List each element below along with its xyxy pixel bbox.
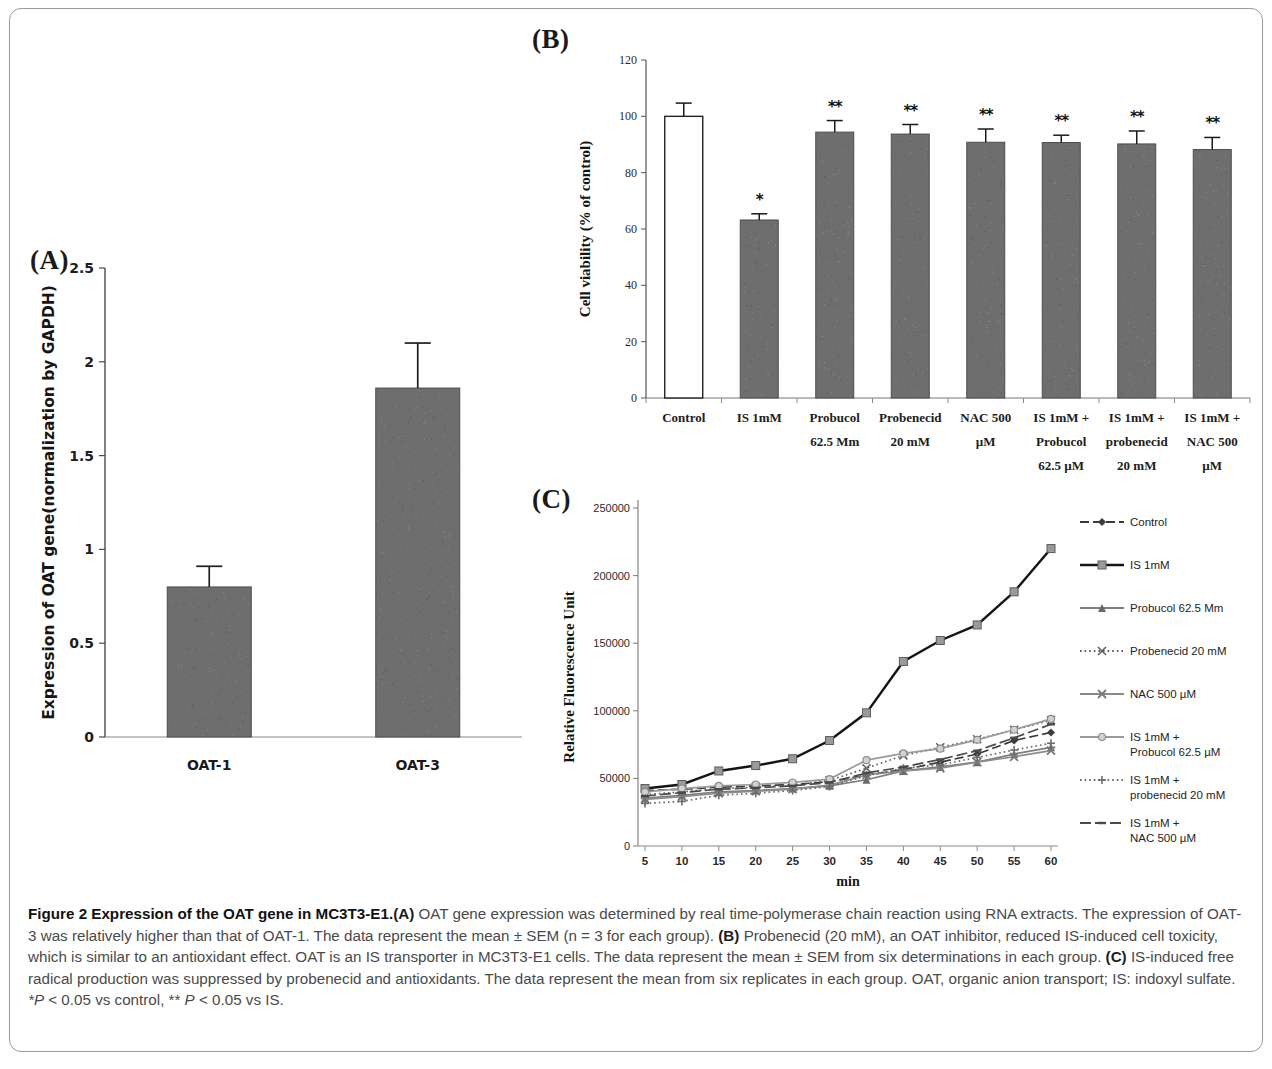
- panel-c-x-tick-label: 55: [1008, 855, 1021, 867]
- panel-c-marker: [1099, 734, 1106, 741]
- figure-caption: Figure 2 Expression of the OAT gene in M…: [28, 903, 1244, 1011]
- panel-b-category-label: Control: [662, 410, 705, 425]
- panel-b-category-label: 62.5 µM: [1038, 458, 1084, 473]
- panel-c-marker: [973, 749, 981, 751]
- panel-c-marker: [936, 636, 944, 644]
- panel-c-marker: [1010, 588, 1018, 596]
- panel-c-x-tick-label: 5: [642, 855, 649, 867]
- panel-c-x-tick-label: 30: [823, 855, 836, 867]
- panel-b-significance-marker: **: [1130, 108, 1145, 126]
- panel-c-legend-entry: Control: [1080, 516, 1167, 528]
- panel-c-legend-label: probenecid 20 mM: [1130, 789, 1225, 801]
- panel-b-y-tick-label: 0: [631, 391, 637, 405]
- panel-c-y-tick-label: 200000: [593, 570, 630, 582]
- panel-c-legend-label: IS 1mM +: [1130, 774, 1180, 786]
- panel-c-marker: [789, 755, 797, 763]
- caption-footnote-rest2: < 0.05 vs IS.: [195, 991, 284, 1008]
- caption-title: Figure 2 Expression of the OAT gene in M…: [28, 905, 393, 922]
- panel-b-significance-marker: **: [1054, 112, 1069, 130]
- panel-c-marker: [752, 762, 760, 770]
- panel-c-legend-entry: Probenecid 20 mM: [1080, 645, 1227, 657]
- panel-c-marker: [678, 791, 686, 793]
- panel-c-legend-label: NAC 500 µM: [1130, 688, 1196, 700]
- panel-b-category-label: µM: [976, 434, 996, 449]
- panel-a-y-tick-label: 2: [84, 354, 94, 370]
- panel-b-category-label: IS 1mM +: [1109, 410, 1165, 425]
- panel-b-bar: [891, 134, 929, 398]
- panel-c-y-tick-label: 250000: [593, 502, 630, 514]
- panel-c-y-axis-title: Relative Fluorescence Unit: [561, 591, 577, 762]
- panel-c-legend-label: IS 1mM +: [1130, 731, 1180, 743]
- panel-b-bar: [665, 116, 703, 398]
- panel-a-y-tick-label: 0.5: [69, 635, 94, 651]
- panel-c-marker: [862, 772, 870, 774]
- panel-b-y-tick-label: 80: [625, 166, 637, 180]
- panel-c-marker: [715, 788, 723, 790]
- panel-c-legend-label: Probucol 62.5 µM: [1130, 746, 1220, 758]
- panel-a-y-tick-label: 1.5: [69, 448, 94, 464]
- panel-c-marker: [1047, 723, 1055, 725]
- panel-c-legend-entry: NAC 500 µM: [1080, 688, 1196, 700]
- panel-c-legend-entry: IS 1mM +probenecid 20 mM: [1080, 774, 1225, 801]
- panel-b-category-label: µM: [1202, 458, 1222, 473]
- panel-b-significance-marker: **: [828, 98, 843, 116]
- panel-c-marker: [899, 657, 907, 665]
- panel-b-significance-marker: **: [979, 106, 994, 124]
- panel-c-marker: [715, 767, 723, 775]
- panel-b-category-label: Probucol: [1036, 434, 1087, 449]
- panel-c-legend-label: Probucol 62.5 Mm: [1130, 602, 1223, 614]
- panel-a-y-tick-label: 1: [84, 541, 94, 557]
- panel-a-chart: (A) 00.511.522.5OAT-1OAT-3Expression of …: [0, 240, 540, 800]
- panel-a-svg: 00.511.522.5OAT-1OAT-3Expression of OAT …: [0, 240, 540, 800]
- panel-b-y-axis-title: Cell viability (% of control): [577, 141, 594, 317]
- panel-a-category-label: OAT-1: [187, 757, 231, 773]
- panel-b-y-tick-label: 60: [625, 222, 637, 236]
- panel-c-marker: [1047, 728, 1055, 736]
- panel-c-marker: [678, 785, 685, 792]
- panel-b-bar: [1118, 144, 1156, 398]
- panel-a-bar: [376, 388, 460, 737]
- panel-b-category-label: 20 mM: [891, 434, 930, 449]
- panel-c-marker: [1048, 715, 1055, 722]
- panel-c-y-tick-label: 100000: [593, 705, 630, 717]
- panel-c-x-tick-label: 60: [1045, 855, 1058, 867]
- panel-c-legend-label: Control: [1130, 516, 1167, 528]
- caption-footnote-rest1: < 0.05 vs control, **: [44, 991, 185, 1008]
- panel-c-marker: [752, 787, 760, 789]
- caption-footnote-p2: P: [185, 991, 195, 1008]
- panel-c-marker: [826, 781, 834, 783]
- panel-c-marker: [641, 795, 649, 797]
- panel-c-marker: [899, 766, 907, 768]
- panel-a-y-tick-label: 2.5: [69, 260, 94, 276]
- panel-b-significance-marker: **: [903, 102, 918, 120]
- panel-c-y-tick-label: 150000: [593, 637, 630, 649]
- panel-a-y-axis-title: Expression of OAT gene(normalization by …: [40, 285, 58, 720]
- panel-c-marker: [937, 745, 944, 752]
- panel-c-legend-entry: IS 1mM +NAC 500 µM: [1080, 817, 1196, 844]
- panel-b-y-tick-label: 20: [625, 335, 637, 349]
- caption-c-tag: (C): [1106, 948, 1127, 965]
- panel-c-legend-entry: IS 1mM: [1080, 559, 1170, 571]
- panel-b-category-label: probenecid: [1106, 434, 1169, 449]
- panel-b-category-label: NAC 500: [960, 410, 1011, 425]
- panel-b-category-label: NAC 500: [1187, 434, 1238, 449]
- panel-b-bar: [816, 132, 854, 398]
- panel-c-series: [641, 739, 1055, 807]
- panel-b-bar: [967, 142, 1005, 398]
- panel-c-marker: [863, 757, 870, 764]
- panel-c-chart: (C) 050000100000150000200000250000510152…: [528, 478, 1272, 898]
- panel-c-x-tick-label: 50: [971, 855, 984, 867]
- panel-c-legend-entry: IS 1mM +Probucol 62.5 µM: [1080, 731, 1220, 758]
- caption-b-tag: (B): [718, 927, 739, 944]
- panel-a-bar: [167, 587, 251, 737]
- panel-c-marker: [973, 621, 981, 629]
- panel-c-marker: [974, 736, 981, 743]
- panel-b-bar: [740, 220, 778, 398]
- panel-c-x-tick-label: 40: [897, 855, 910, 867]
- panel-b-significance-marker: *: [756, 191, 764, 209]
- panel-c-marker: [936, 758, 944, 760]
- figure-page: (A) 00.511.522.5OAT-1OAT-3Expression of …: [0, 0, 1272, 1069]
- panel-c-marker: [642, 788, 649, 795]
- panel-c-x-tick-label: 35: [860, 855, 873, 867]
- panel-c-x-axis-title: min: [836, 874, 860, 889]
